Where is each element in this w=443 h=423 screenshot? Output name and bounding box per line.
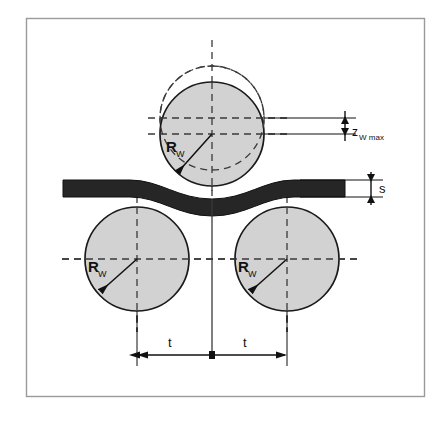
t-left-label: t <box>168 335 172 350</box>
strip-thickness-label: s <box>379 181 386 196</box>
z-w-max-label: z <box>352 125 358 139</box>
three-roll-bending-diagram: R W R W R W z W max s <box>0 0 443 423</box>
t-center-tick <box>209 351 215 359</box>
t-right-label: t <box>243 335 247 350</box>
top-roll-radius-sub: W <box>176 149 185 159</box>
z-w-max-sub: W max <box>359 133 384 142</box>
bottom-left-roll-radius-sub: W <box>98 269 107 279</box>
figure-container: R W R W R W z W max s <box>0 0 443 423</box>
bottom-right-roll-radius-sub: W <box>248 269 257 279</box>
